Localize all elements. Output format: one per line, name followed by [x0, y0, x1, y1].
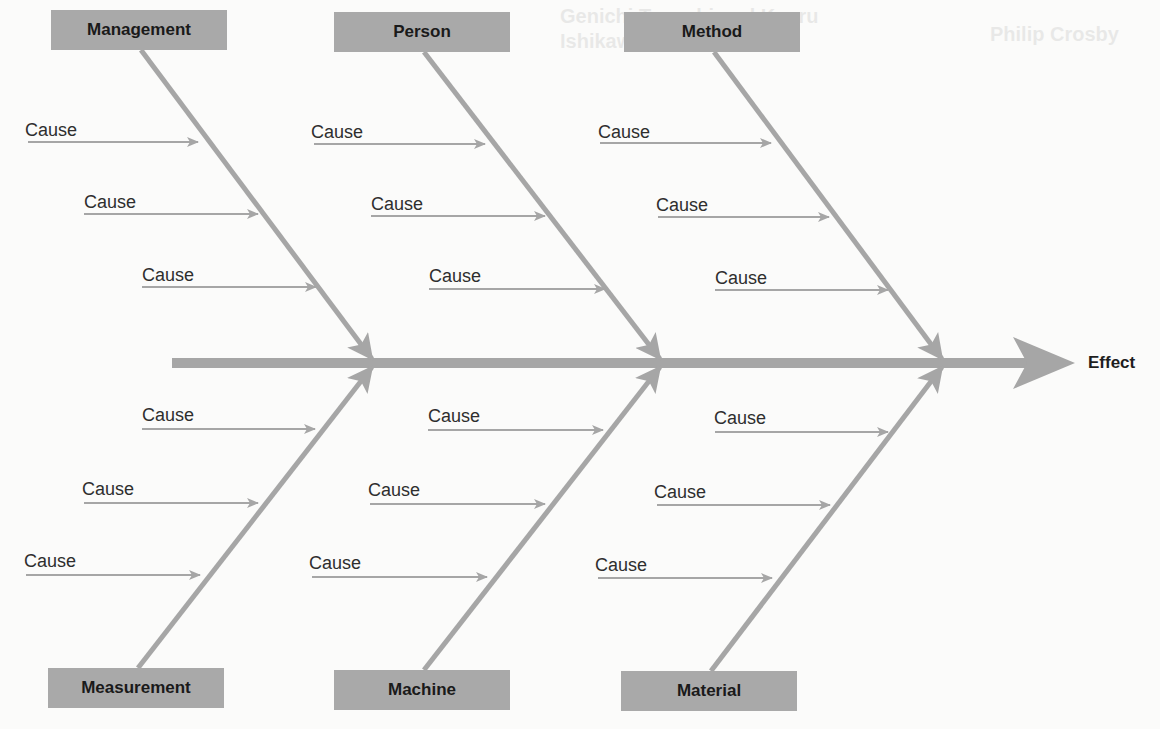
cause-label-person-1: Cause	[311, 122, 363, 143]
bone-management	[141, 50, 372, 359]
effect-label: Effect	[1088, 353, 1135, 373]
cause-label-machine-2: Cause	[368, 480, 420, 501]
fishbone-diagram	[0, 0, 1160, 729]
cause-label-measurement-2: Cause	[82, 479, 134, 500]
cause-label-person-2: Cause	[371, 194, 423, 215]
bone-person	[424, 52, 660, 359]
cause-label-management-2: Cause	[84, 192, 136, 213]
cause-label-method-1: Cause	[598, 122, 650, 143]
cause-label-management-3: Cause	[142, 265, 194, 286]
category-box-measurement: Measurement	[48, 668, 224, 708]
cause-label-material-2: Cause	[654, 482, 706, 503]
cause-label-material-3: Cause	[595, 555, 647, 576]
cause-label-machine-1: Cause	[428, 406, 480, 427]
cause-label-method-3: Cause	[715, 268, 767, 289]
category-box-machine: Machine	[334, 670, 510, 710]
cause-label-person-3: Cause	[429, 266, 481, 287]
cause-label-measurement-3: Cause	[24, 551, 76, 572]
bone-method	[714, 52, 942, 359]
category-box-method: Method	[624, 12, 800, 52]
category-box-person: Person	[334, 12, 510, 52]
spine-group	[172, 337, 1075, 389]
cause-label-machine-3: Cause	[309, 553, 361, 574]
category-box-material: Material	[621, 671, 797, 711]
cause-label-management-1: Cause	[25, 120, 77, 141]
cause-label-material-1: Cause	[714, 408, 766, 429]
cause-label-method-2: Cause	[656, 195, 708, 216]
cause-label-measurement-1: Cause	[142, 405, 194, 426]
category-box-management: Management	[51, 10, 227, 50]
